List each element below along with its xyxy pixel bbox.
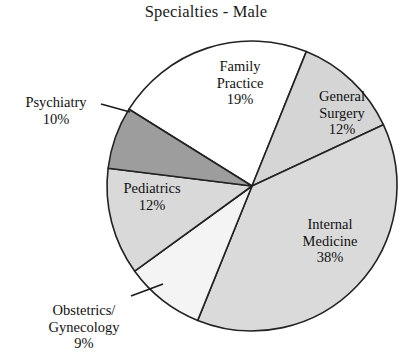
slice-label-pediatrics: Pediatrics 12% — [104, 180, 200, 213]
slice-label-family-practice: Family Practice 19% — [188, 58, 292, 108]
slice-label-obstetrics-gynecology: Obstetrics/ Gynecology 9% — [24, 302, 144, 352]
slice-label-psychiatry: Psychiatry 10% — [4, 94, 108, 127]
pie-chart-figure: Specialties - Male Family Practice 19% G… — [0, 0, 412, 358]
slice-label-general-surgery: General Surgery 12% — [296, 88, 388, 138]
slice-label-internal-medicine: Internal Medicine 38% — [274, 216, 386, 266]
